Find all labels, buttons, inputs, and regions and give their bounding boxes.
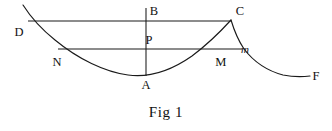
figure-caption: Fig 1	[0, 104, 332, 121]
figure-1-diagram: D B C P m N M A F Fig 1	[0, 0, 332, 131]
point-label-M: M	[215, 56, 226, 69]
point-label-D: D	[14, 26, 23, 39]
point-label-m: m	[241, 44, 249, 55]
point-label-P: P	[145, 34, 152, 47]
point-label-A: A	[141, 79, 150, 92]
curve-group	[23, 5, 310, 77]
point-label-C: C	[236, 5, 245, 18]
point-label-N: N	[52, 56, 61, 69]
point-label-F: F	[312, 70, 319, 83]
point-label-B: B	[150, 5, 159, 18]
